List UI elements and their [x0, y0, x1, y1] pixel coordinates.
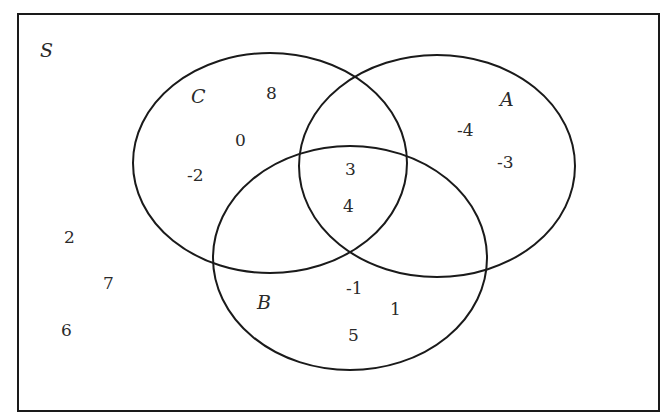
set-a-label: A [498, 88, 514, 110]
element-a-only: -3 [497, 152, 514, 172]
universe-label: S [40, 39, 53, 61]
element-outside: 2 [64, 227, 75, 247]
element-all-three: 3 [345, 159, 356, 179]
element-all-three: 4 [343, 196, 354, 216]
venn-diagram: S C A B 8 0 -2 -4 -3 3 4 -1 1 5 2 7 6 [0, 0, 669, 414]
element-a-only: -4 [457, 120, 474, 140]
element-outside: 7 [103, 273, 114, 293]
set-b-label: B [256, 291, 271, 313]
element-c-only: 8 [266, 83, 277, 103]
set-a-ellipse [299, 55, 575, 277]
element-b-only: -1 [346, 278, 363, 298]
element-c-only: -2 [187, 165, 204, 185]
element-b-only: 5 [348, 325, 359, 345]
element-outside: 6 [61, 320, 72, 340]
set-c-label: C [191, 85, 206, 107]
element-c-only: 0 [235, 130, 246, 150]
element-b-only: 1 [390, 299, 401, 319]
